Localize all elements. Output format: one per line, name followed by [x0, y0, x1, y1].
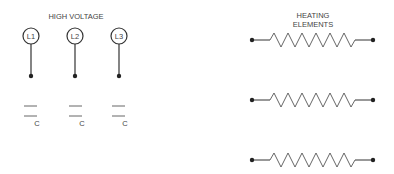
- junction-dot: [73, 74, 77, 78]
- terminal-dot: [250, 38, 254, 42]
- terminal-label: L1: [27, 32, 35, 41]
- capacitor-label: C: [122, 119, 128, 128]
- heating-element-2: [250, 93, 375, 107]
- capacitor-1: C: [24, 106, 40, 128]
- terminal-dot: [250, 98, 254, 102]
- capacitor-label: C: [34, 119, 40, 128]
- terminal-l2: L2: [67, 28, 83, 78]
- terminal-l3: L3: [111, 28, 127, 78]
- terminal-dot: [371, 158, 375, 162]
- terminal-dot: [250, 158, 254, 162]
- terminal-label: L2: [71, 32, 79, 41]
- junction-dot: [29, 74, 33, 78]
- junction-dot: [117, 74, 121, 78]
- capacitor-label: C: [79, 119, 85, 128]
- terminal-l1: L1: [23, 28, 39, 78]
- heating-element-3: [250, 153, 375, 167]
- heating-title-line1: HEATING: [297, 11, 330, 20]
- heating-title-line2: ELEMENTS: [293, 20, 333, 29]
- terminal-dot: [371, 98, 375, 102]
- capacitor-2: C: [69, 106, 85, 128]
- heating-element-1: [250, 33, 375, 47]
- terminal-label: L3: [115, 32, 123, 41]
- wiring-diagram: HIGH VOLTAGE L1 L2 L3 C C C HEATING ELEM…: [0, 0, 394, 174]
- capacitor-3: C: [112, 106, 128, 128]
- high-voltage-title: HIGH VOLTAGE: [48, 12, 103, 21]
- terminal-dot: [371, 38, 375, 42]
